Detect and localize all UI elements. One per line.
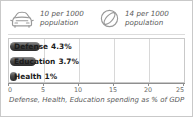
stat-dishes-text: 14 per 1000 population [125,10,169,27]
stat-vehicles-unit: population [40,19,84,28]
stat-dishes-unit: population [125,19,169,28]
chart-caption: Defense, Health, Education spending as %… [9,96,184,104]
stat-vehicles-value: 10 per 1000 [40,9,84,18]
axis-tick-label: 5 [41,86,45,94]
stat-vehicles-text: 10 per 1000 population [40,10,84,27]
axis-tick-label: 20 [144,86,152,94]
satellite-dish-icon [99,8,120,29]
stat-item-vehicles: 10 per 1000 population [1,1,97,36]
axis-tick-label: 15 [109,86,117,94]
infographic-widget: 10 per 1000 population 14 per 1000 popul… [0,0,193,117]
chart-bar-label: Defense [14,42,48,51]
stats-row: 10 per 1000 population 14 per 1000 popul… [1,1,192,36]
chart-bar-value: 3.7% [58,57,79,66]
axis-tick-label: 25 [176,86,184,94]
chart-bar-row: Education3.7% [9,54,79,69]
spending-bar-chart: Defense4.3%Education3.7%Health1% [8,38,185,83]
axis-tick-label: 0 [8,86,12,94]
chart-bar-label: Education [14,57,55,66]
car-icon [9,8,35,30]
chart-gridline [114,39,115,82]
chart-bar-row: Defense4.3% [9,39,72,54]
chart-bar-label: Health [14,72,42,81]
chart-gridline [149,39,150,82]
stat-item-dishes: 14 per 1000 population [97,1,192,36]
axis-tick-label: 10 [74,86,82,94]
chart-x-axis: 0510152025 [8,83,185,94]
stat-dishes-value: 14 per 1000 [125,9,169,18]
chart-gridline [79,39,80,82]
section-divider [8,34,185,35]
axis-line [8,83,185,84]
chart-plot-area: Defense4.3%Education3.7%Health1% [8,38,185,83]
chart-bar-row: Health1% [9,69,57,83]
chart-bar-value: 4.3% [51,42,72,51]
chart-bar-value: 1% [45,72,58,81]
